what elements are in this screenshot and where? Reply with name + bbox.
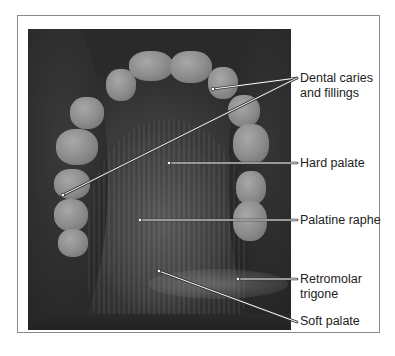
leader-retromolar-trigone <box>236 277 297 281</box>
leader-hard-palate <box>167 161 297 165</box>
leader-dental-caries <box>61 78 297 197</box>
leader-lines <box>0 0 395 356</box>
leader-palatine-raphe <box>138 218 297 222</box>
leader-soft-palate <box>157 269 297 322</box>
